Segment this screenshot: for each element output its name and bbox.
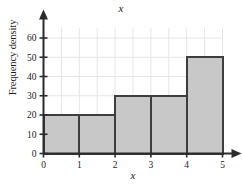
x-tick-label: 0 [41,160,46,170]
y-tick-label: 0 [32,149,37,159]
x-axis-ticks: 012345 [41,154,225,170]
x-tick-label: 2 [113,160,118,170]
x-tick-label: 5 [220,160,225,170]
histogram-bar [79,115,115,154]
x-tick-label: 1 [77,160,82,170]
x-axis-arrowhead-icon [232,149,242,158]
y-tick-label: 20 [27,110,37,120]
plot-area: 012345 0102030405060 [0,0,242,187]
histogram-bar [187,57,223,153]
y-axis-arrowhead-icon [39,9,48,19]
y-tick-label: 30 [27,91,37,101]
y-tick-label: 10 [27,130,37,140]
histogram-bar [44,115,80,154]
histogram-figure: x Frequency density x 012345 01020304050… [0,0,242,187]
y-tick-label: 40 [27,72,37,82]
x-tick-label: 3 [149,160,154,170]
y-tick-label: 60 [27,33,37,43]
y-tick-label: 50 [27,53,37,63]
histogram-bar [115,96,151,154]
histogram-bar [151,96,187,154]
x-tick-label: 4 [184,160,189,170]
